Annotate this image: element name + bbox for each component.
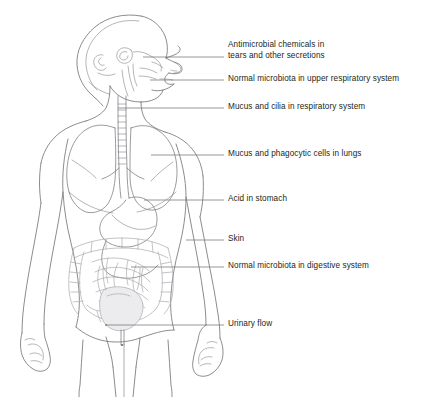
label-acid-in-stomach: Acid in stomach: [228, 194, 287, 205]
label-skin: Skin: [228, 234, 244, 245]
label-urinary-flow: Urinary flow: [228, 319, 272, 330]
label-normal-microbiota-upper-respiratory: Normal microbiota in upper respiratory s…: [228, 74, 399, 85]
label-mucus-cilia-respiratory: Mucus and cilia in respiratory system: [228, 102, 365, 113]
label-normal-microbiota-digestive: Normal microbiota in digestive system: [228, 261, 369, 272]
label-mucus-phagocytic-lungs: Mucus and phagocytic cells in lungs: [228, 149, 362, 160]
label-antimicrobial-chemicals: Antimicrobial chemicals in tears and oth…: [228, 40, 325, 61]
anatomy-diagram: Antimicrobial chemicals in tears and oth…: [0, 0, 441, 397]
label-text-layer: Antimicrobial chemicals in tears and oth…: [0, 0, 441, 397]
